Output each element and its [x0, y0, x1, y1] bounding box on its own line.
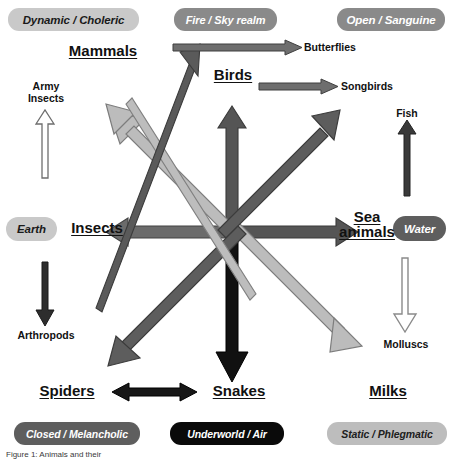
- node-sea-animals-line2: animals: [339, 223, 395, 240]
- node-milks[interactable]: Milks: [357, 382, 419, 399]
- arrow-insects-to-army-insects: [36, 110, 54, 178]
- leaf-fish[interactable]: Fish: [388, 107, 426, 119]
- arrow-birds-to-songbirds: [259, 79, 338, 94]
- leaf-army-insects-line1: Army: [33, 80, 60, 92]
- badge-fire-sky-realm[interactable]: Fire / Sky realm: [174, 8, 277, 31]
- badge-open-sanguine[interactable]: Open / Sanguine: [337, 8, 445, 31]
- leaf-army-insects-line2: Insects: [28, 92, 64, 104]
- node-snakes[interactable]: Snakes: [200, 382, 278, 399]
- node-sea-animals[interactable]: Sea animals: [333, 209, 401, 239]
- figure-caption: Figure 1: Animals and their: [6, 450, 101, 459]
- arrow-sea-animals-to-molluscs: [394, 258, 416, 332]
- node-birds[interactable]: Birds: [198, 66, 268, 83]
- badge-underworld-air[interactable]: Underworld / Air: [170, 422, 284, 445]
- leaf-songbirds[interactable]: Songbirds: [341, 80, 407, 92]
- arrow-insects-to-arthropods: [36, 262, 54, 326]
- node-insects[interactable]: Insects: [60, 219, 134, 236]
- leaf-butterflies[interactable]: Butterflies: [304, 41, 374, 53]
- arrow-spiders-snakes-bidirectional: [112, 383, 197, 401]
- arrow-sea-animals-to-fish: [398, 120, 416, 196]
- badge-dynamic-choleric[interactable]: Dynamic / Choleric: [8, 8, 139, 31]
- leaf-arthropods[interactable]: Arthropods: [12, 329, 80, 341]
- node-mammals[interactable]: Mammals: [58, 42, 148, 59]
- badge-static-phlegmatic[interactable]: Static / Phlegmatic: [327, 422, 447, 445]
- node-spiders[interactable]: Spiders: [28, 382, 106, 399]
- diagram-canvas: Dynamic / Choleric Fire / Sky realm Open…: [0, 0, 451, 462]
- badge-earth[interactable]: Earth: [6, 217, 57, 241]
- leaf-army-insects[interactable]: Army Insects: [18, 80, 74, 104]
- leaf-molluscs[interactable]: Molluscs: [378, 338, 434, 350]
- badge-closed-melancholic[interactable]: Closed / Melancholic: [14, 422, 140, 445]
